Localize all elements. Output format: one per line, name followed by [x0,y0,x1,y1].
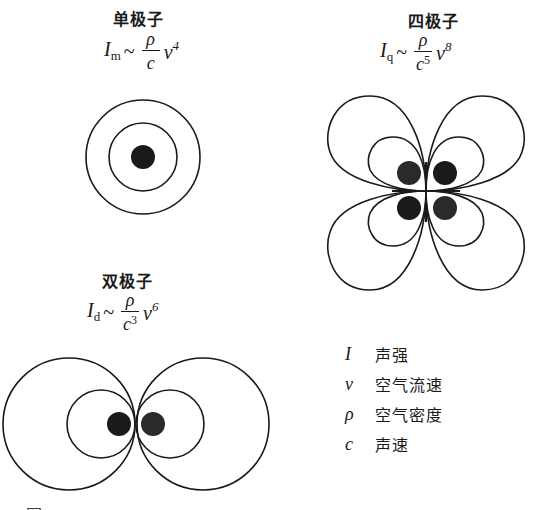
proportional-symbol: ~ [124,40,135,63]
quadrupole-inner-lobe-tl [368,137,426,191]
monopole-title: 单极子 [113,6,164,30]
velocity-term: v6 [143,299,158,325]
dipole-pattern [3,358,269,490]
quadrupole-source-dot-br [433,196,457,220]
legend-item-intensity: I 声强 [345,339,443,369]
quadrupole-source-dot-bl [397,196,421,220]
legend-item-sound-speed: c 声速 [345,429,443,459]
figure-caption: 图 [26,502,42,510]
velocity-term: v8 [436,39,451,65]
dipole-title: 双极子 [102,268,153,292]
quadrupole-inner-lobe-br [426,191,484,246]
legend-item-velocity: v 空气流速 [345,369,443,399]
monopole-source-dot [131,145,155,169]
dipole-source-dot-left [107,412,131,436]
dipole-source-dot-right [141,412,165,436]
proportional-symbol: ~ [396,41,407,64]
proportional-symbol: ~ [103,301,114,324]
fraction: ρ c3 [121,291,139,333]
quadrupole-inner-lobe-tr [426,137,484,191]
monopole-pattern [86,100,200,214]
dipole-formula: Id ~ ρ c3 v6 [87,291,158,333]
intensity-symbol: Id [87,299,100,325]
fraction: ρ c [142,30,160,72]
legend-item-density: ρ 空气密度 [345,399,443,429]
quadrupole-source-dot-tr [433,161,457,185]
monopole-formula: Im ~ ρ c v4 [104,30,179,72]
quadrupole-source-dot-tl [397,161,421,185]
intensity-symbol: Im [104,38,121,64]
quadrupole-inner-lobe-bl [368,191,426,246]
intensity-symbol: Iq [380,39,393,65]
quadrupole-formula: Iq ~ ρ c5 v8 [380,31,451,73]
quadrupole-title: 四极子 [408,8,459,32]
fraction: ρ c5 [414,31,432,73]
velocity-term: v4 [164,38,179,64]
legend: I 声强 v 空气流速 ρ 空气密度 c 声速 [345,339,443,459]
quadrupole-pattern [328,96,525,290]
radiation-patterns [0,0,537,510]
